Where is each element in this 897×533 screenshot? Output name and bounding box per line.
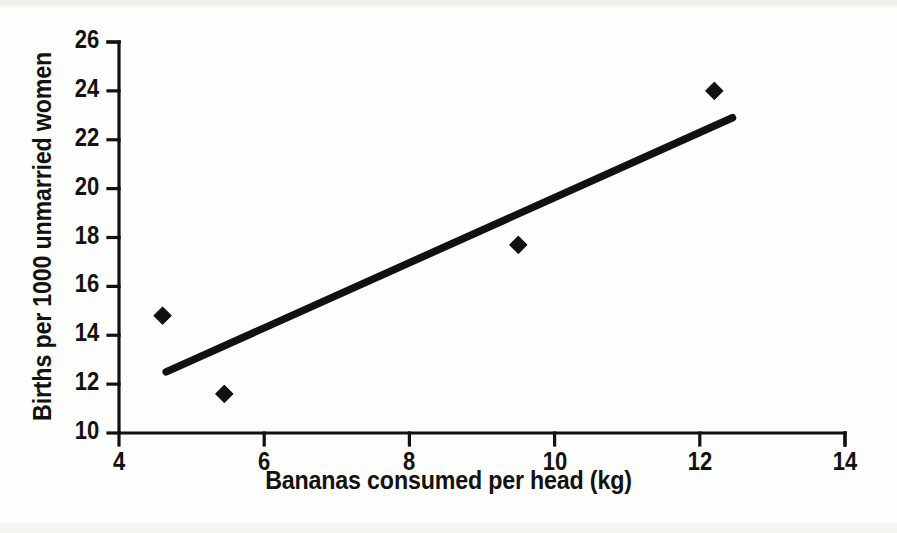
axis-spines <box>108 42 845 445</box>
y-tick-label: 24 <box>59 74 99 103</box>
x-axis-title: Bananas consumed per head (kg) <box>31 466 865 495</box>
y-tick-label: 22 <box>59 123 99 152</box>
y-tick-label: 20 <box>59 172 99 201</box>
x-axis-tick-marks <box>119 433 845 445</box>
y-tick-label: 18 <box>59 221 99 250</box>
y-tick-label: 16 <box>59 269 99 298</box>
y-tick-label: 14 <box>59 318 99 347</box>
y-tick-label: 12 <box>59 367 99 396</box>
y-tick-label: 10 <box>59 416 99 445</box>
y-axis-tick-marks <box>108 42 119 433</box>
chart-figure: 101214161820222426468101214 Bananas cons… <box>0 0 897 533</box>
y-axis-title: Births per 1000 unmarried women <box>28 18 57 455</box>
y-tick-label: 26 <box>59 25 99 54</box>
trend-line <box>166 118 732 372</box>
data-point-markers <box>154 82 723 402</box>
